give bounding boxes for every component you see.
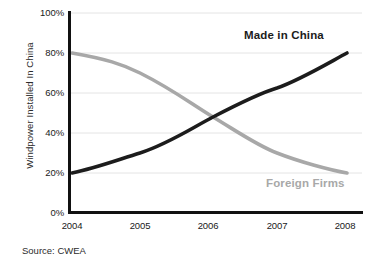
x-tick-2008: 2008 <box>315 220 375 231</box>
source-note: Source: CWEA <box>22 245 86 256</box>
x-tick-2005: 2005 <box>110 220 170 231</box>
series-label-foreign-firms: Foreign Firms <box>266 177 345 189</box>
series-label-made-in-china: Made in China <box>244 29 324 41</box>
y-tick-80: 80% <box>22 47 64 58</box>
x-tick-2004: 2004 <box>42 220 102 231</box>
y-tick-100: 100% <box>22 7 64 18</box>
y-tick-40: 40% <box>22 127 64 138</box>
y-tick-20: 20% <box>22 167 64 178</box>
chart-figure: Windpower Installed In China 100% 80% 60… <box>0 0 381 271</box>
y-tick-0: 0% <box>22 207 64 218</box>
series-line-foreign-firms <box>72 53 347 173</box>
y-tick-60: 60% <box>22 87 64 98</box>
x-tick-2006: 2006 <box>178 220 238 231</box>
x-tick-2007: 2007 <box>247 220 307 231</box>
